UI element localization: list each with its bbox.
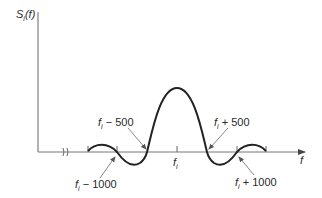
leader-plus-1000 — [239, 157, 254, 175]
leader-minus-500 — [128, 128, 146, 149]
label-fi-minus-1000: fi − 1000 — [75, 178, 117, 192]
spectrum-diagram — [0, 0, 322, 198]
y-axis-label: Si(f) — [16, 8, 35, 22]
center-frequency-label: fi — [173, 156, 178, 170]
x-axis-label: f — [300, 154, 303, 166]
label-fi-plus-1000: fi + 1000 — [235, 176, 277, 190]
leader-plus-500 — [209, 128, 228, 149]
leader-minus-1000 — [100, 157, 115, 178]
label-fi-plus-500: fi + 500 — [214, 116, 250, 130]
label-fi-minus-500: fi − 500 — [98, 116, 134, 130]
